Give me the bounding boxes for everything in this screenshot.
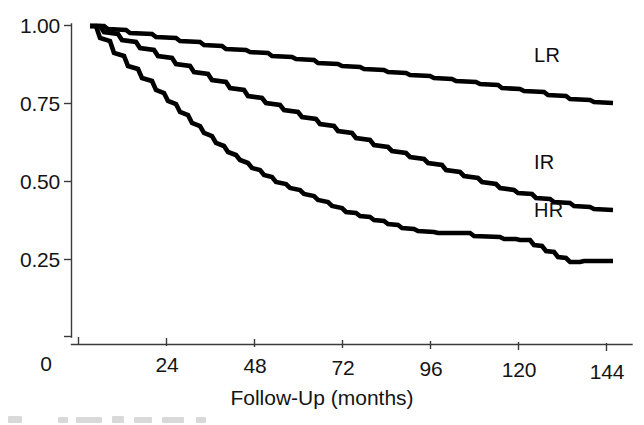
x-tick-label-144: 144: [582, 360, 632, 384]
x-tick-label-24: 24: [146, 353, 188, 377]
y-tick-label-0-50: 0.50: [2, 170, 60, 194]
x-tick-label-96: 96: [410, 357, 452, 381]
series-label-ir: IR: [534, 151, 555, 174]
scan-edge-artifacts: [0, 414, 644, 425]
x-tick-label-72: 72: [322, 356, 364, 380]
survival-curve-figure: 1.00 0.75 0.50 0.25 0 24 48 72 96 120 14…: [0, 0, 644, 425]
y-tick-label-0-25: 0.25: [2, 248, 60, 272]
x-axis-title: Follow-Up (months): [0, 386, 644, 410]
series-label-lr: LR: [534, 44, 560, 67]
x-tick-label-0: 0: [26, 352, 66, 376]
series-label-hr: HR: [534, 199, 564, 222]
x-tick-label-120: 120: [494, 358, 544, 382]
y-axis-ticks: [64, 26, 72, 337]
y-tick-label-0-75: 0.75: [2, 92, 60, 116]
x-tick-label-48: 48: [234, 354, 276, 378]
y-tick-label-1-00: 1.00: [2, 14, 60, 38]
